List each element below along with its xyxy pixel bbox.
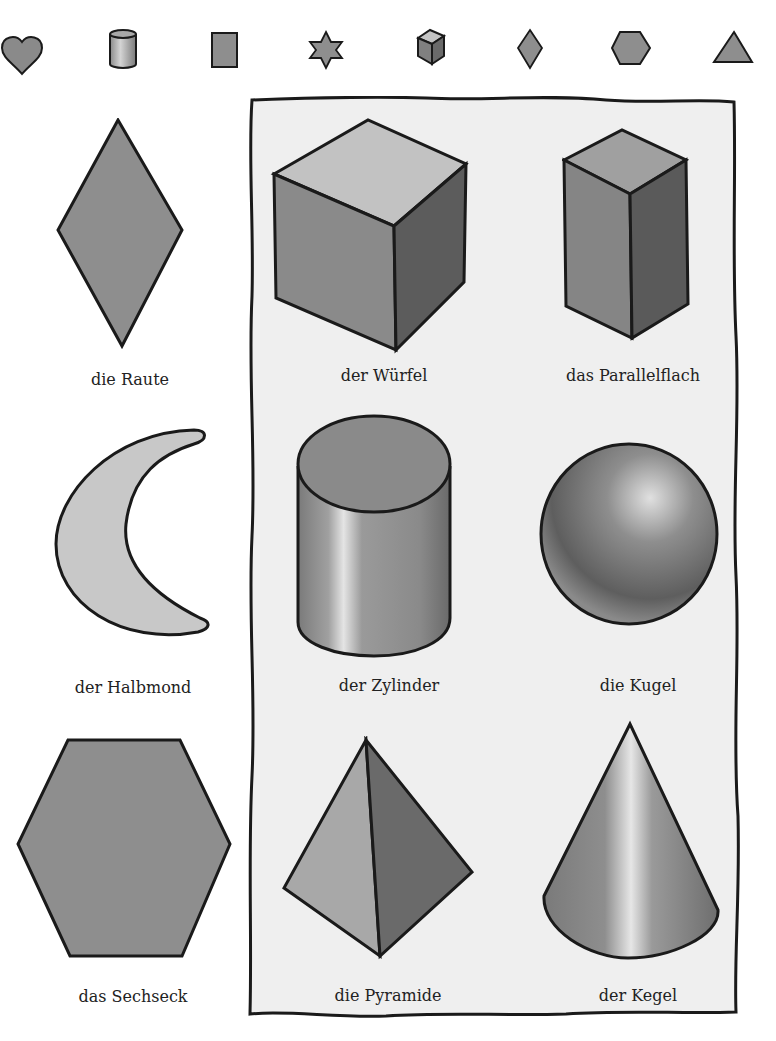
label-crescent: der Halbmond bbox=[75, 678, 192, 697]
hexagon-shape bbox=[16, 736, 232, 960]
rectangle-icon bbox=[210, 28, 260, 78]
solids-panel: der Würfel das Parallelflach bbox=[246, 96, 740, 1018]
label-cylinder: der Zylinder bbox=[339, 676, 440, 695]
cone-shape bbox=[540, 720, 724, 964]
sphere-shape bbox=[538, 442, 722, 628]
pyramid-shape bbox=[280, 736, 476, 962]
label-cuboid: das Parallelflach bbox=[566, 366, 700, 385]
label-sphere: die Kugel bbox=[600, 676, 677, 695]
heart-icon bbox=[0, 28, 50, 78]
cylinder-icon bbox=[108, 28, 158, 78]
cuboid-shape bbox=[562, 128, 694, 346]
cube-shape bbox=[270, 116, 470, 356]
label-cone: der Kegel bbox=[599, 986, 677, 1005]
label-cube: der Würfel bbox=[341, 366, 428, 385]
hexagon-icon bbox=[610, 28, 660, 78]
triangle-icon bbox=[712, 28, 762, 78]
cube-icon bbox=[416, 28, 466, 78]
star-icon bbox=[306, 28, 356, 78]
label-hexagon: das Sechseck bbox=[78, 987, 187, 1006]
cylinder-shape bbox=[296, 412, 456, 658]
crescent-shape bbox=[52, 424, 212, 646]
rhombus-icon bbox=[516, 28, 566, 78]
label-pyramid: die Pyramide bbox=[335, 986, 442, 1005]
label-rhombus: die Raute bbox=[91, 370, 169, 389]
rhombus-shape bbox=[56, 118, 186, 350]
